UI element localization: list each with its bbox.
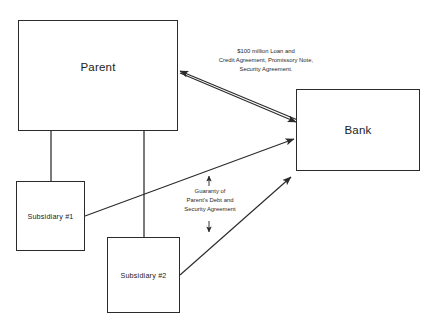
node-parent-label: Parent (80, 61, 115, 73)
node-bank-label: Bank (344, 124, 371, 136)
edge-label-guaranty-line-3: Security Agreement (170, 205, 250, 214)
node-subsidiary-1-label: Subsidiary #1 (27, 212, 73, 221)
arrow-bank-to-parent (180, 71, 300, 121)
arrow-parent-to-bank (180, 73, 296, 122)
edge-label-guaranty-line-1: Guaranty of (170, 187, 250, 196)
node-subsidiary-2[interactable]: Subsidiary #2 (107, 237, 180, 313)
node-subsidiary-2-label: Subsidiary #2 (120, 271, 166, 280)
node-subsidiary-1[interactable]: Subsidiary #1 (16, 181, 85, 251)
edge-label-guaranty-line-2: Parent's Debt and (170, 196, 250, 205)
node-bank[interactable]: Bank (296, 89, 420, 171)
edge-label-loan-line-1: $100 million Loan and (198, 47, 334, 56)
diagram-canvas: Parent Bank Subsidiary #1 Subsidiary #2 … (0, 0, 438, 323)
edge-label-loan: $100 million Loan and Credit Agreement, … (198, 47, 334, 74)
edge-label-guaranty: Guaranty of Parent's Debt and Security A… (170, 187, 250, 214)
edge-label-loan-line-3: Security Agreement. (198, 65, 334, 74)
node-parent[interactable]: Parent (18, 20, 178, 131)
edge-label-loan-line-2: Credit Agreement, Promissory Note, (198, 56, 334, 65)
